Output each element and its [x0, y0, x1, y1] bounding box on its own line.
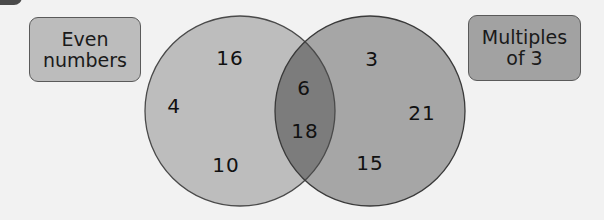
value-16: 16 — [216, 46, 243, 70]
value-10: 10 — [212, 153, 239, 177]
value-6: 6 — [297, 76, 311, 100]
value-4: 4 — [167, 94, 181, 118]
value-3: 3 — [365, 47, 379, 71]
value-21: 21 — [408, 101, 435, 125]
value-15: 15 — [356, 151, 383, 175]
value-18: 18 — [291, 119, 318, 143]
venn-diagram — [0, 0, 604, 220]
